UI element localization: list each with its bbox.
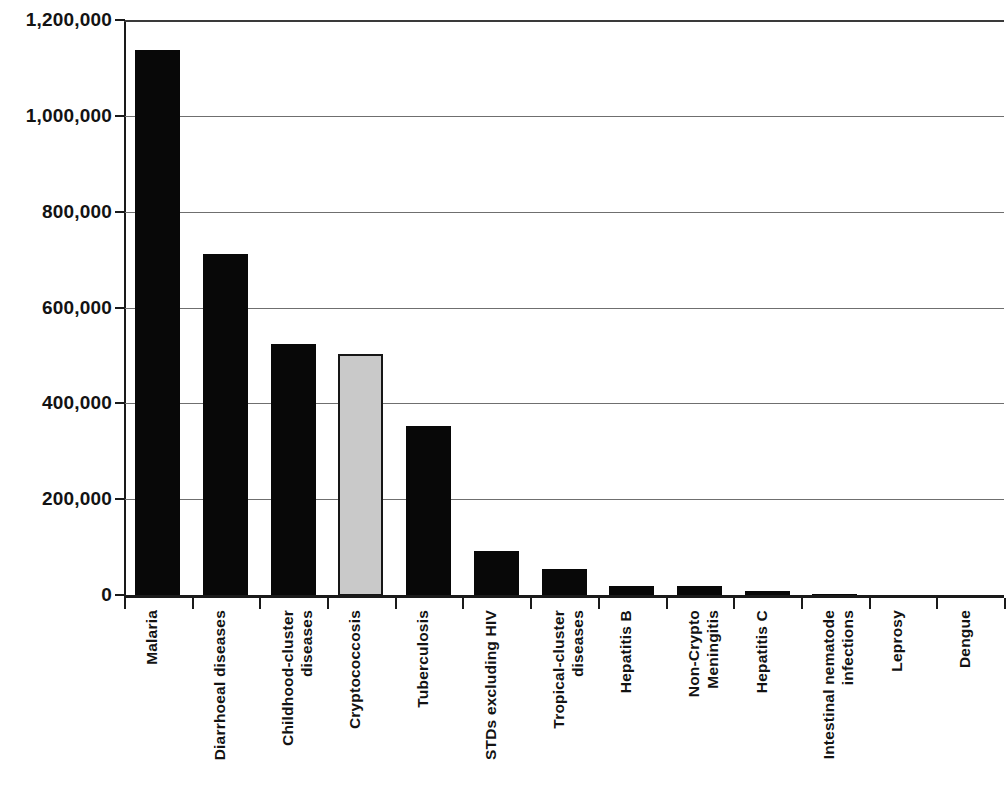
x-tick-label: Tuberculosis — [415, 610, 434, 800]
x-tick-label-line: Hepatitis C — [754, 610, 770, 693]
x-tick-label: Leprosy — [889, 610, 908, 800]
y-tick-label: 1,000,000 — [26, 105, 112, 127]
x-axis-tick-marks — [124, 598, 1004, 610]
x-tick-label: Diarrhoeal diseases — [212, 610, 231, 800]
bar — [474, 551, 519, 596]
y-tick-mark — [115, 402, 125, 404]
y-tick-mark — [115, 594, 125, 596]
x-tick-mark — [869, 598, 871, 609]
x-tick-label-line: Cryptococcosis — [347, 610, 363, 729]
x-tick-mark — [801, 598, 803, 609]
y-tick-mark — [115, 115, 125, 117]
x-tick-label-line: Tuberculosis — [415, 610, 431, 708]
x-tick-label: Hepatitis B — [618, 610, 637, 800]
x-tick-mark — [259, 598, 261, 609]
x-tick-label-line: infections — [840, 610, 856, 685]
x-tick-mark — [530, 598, 532, 609]
x-tick-mark — [462, 598, 464, 609]
x-tick-label-line: STDs excluding HIV — [483, 610, 499, 760]
x-tick-label-line: Hepatitis B — [618, 610, 634, 693]
y-tick-label: 600,000 — [42, 297, 112, 319]
plot-area — [124, 20, 1004, 596]
x-tick-label: Intestinal nematodeinfections — [821, 610, 858, 800]
x-tick-label: Dengue — [957, 610, 976, 800]
x-tick-label-line: Leprosy — [889, 610, 905, 672]
x-tick-label-line: Childhood-cluster — [280, 610, 296, 746]
bar — [542, 569, 587, 596]
x-tick-label: Cryptococcosis — [347, 610, 366, 800]
x-tick-label-line: Dengue — [957, 610, 973, 668]
y-tick-label: 200,000 — [42, 488, 112, 510]
y-tick-label: 1,200,000 — [26, 9, 112, 31]
bar — [406, 426, 451, 596]
x-tick-mark — [395, 598, 397, 609]
y-axis-tick-labels: 0200,000400,000600,000800,0001,000,0001,… — [0, 0, 112, 802]
y-tick-label: 800,000 — [42, 201, 112, 223]
y-tick-mark — [115, 19, 125, 21]
bar — [338, 354, 383, 596]
y-tick-mark — [115, 211, 125, 213]
y-tick-mark — [115, 498, 125, 500]
bar — [135, 50, 180, 596]
x-tick-mark — [733, 598, 735, 609]
x-tick-label: Childhood-clusterdiseases — [280, 610, 317, 800]
x-tick-mark — [666, 598, 668, 609]
x-axis-tick-labels: MalariaDiarrhoeal diseasesChildhood-clus… — [124, 610, 1004, 802]
x-tick-mark — [124, 598, 126, 609]
x-tick-label-line: diseases — [299, 610, 315, 677]
x-tick-label: Hepatitis C — [754, 610, 773, 800]
y-tick-label: 0 — [101, 584, 112, 606]
x-tick-mark — [192, 598, 194, 609]
x-tick-label-line: diseases — [570, 610, 586, 677]
x-tick-mark — [936, 598, 938, 609]
x-tick-label: Malaria — [144, 610, 163, 800]
x-tick-mark — [327, 598, 329, 609]
x-tick-label-line: Malaria — [144, 610, 160, 665]
y-tick-label: 400,000 — [42, 392, 112, 414]
bar — [271, 344, 316, 596]
x-tick-label-line: Meningitis — [705, 610, 721, 689]
x-tick-label-line: Tropical-cluster — [551, 610, 567, 729]
x-tick-mark — [598, 598, 600, 609]
x-tick-label: STDs excluding HIV — [483, 610, 502, 800]
x-tick-label-line: Diarrhoeal diseases — [212, 610, 228, 760]
x-tick-label: Non-CryptoMeningitis — [686, 610, 723, 800]
x-tick-label: Tropical-clusterdiseases — [551, 610, 588, 800]
x-tick-label-line: Intestinal nematode — [821, 610, 837, 759]
bar — [203, 254, 248, 596]
y-tick-mark — [115, 307, 125, 309]
x-tick-label-line: Non-Crypto — [686, 610, 702, 697]
